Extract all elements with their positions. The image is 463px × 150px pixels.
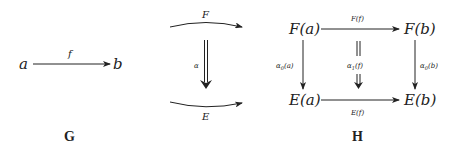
diagram-canvas: a f b G F α E F(a) F(b) E(a) E(b) F(f) E… xyxy=(0,0,463,150)
morphism-f-label: f xyxy=(67,48,74,59)
object-b: b xyxy=(113,55,123,73)
caption-h: H xyxy=(352,129,363,144)
label-alpha0-b: α0(b) xyxy=(420,62,438,71)
functor-f-label: F xyxy=(201,9,210,20)
diagram-h: F(a) F(b) E(a) E(b) F(f) E(f) α0(a) α0(b… xyxy=(276,15,438,144)
functor-f-arrow xyxy=(170,23,242,28)
diagram-g: a f b G xyxy=(19,48,123,144)
caption-g: G xyxy=(64,129,75,144)
node-f-a: F(a) xyxy=(288,20,320,38)
object-a: a xyxy=(19,55,28,73)
diagram-natural-transformation: F α E xyxy=(170,9,242,122)
label-f-f: F(f) xyxy=(350,15,364,23)
node-e-a: E(a) xyxy=(288,91,321,109)
label-e-f: E(f) xyxy=(350,109,364,117)
functor-e-arrow xyxy=(170,102,242,107)
double-arrow-head-icon xyxy=(354,82,363,89)
node-e-b: E(b) xyxy=(403,91,436,109)
alpha-label: α xyxy=(194,62,199,70)
double-arrow-head-icon xyxy=(200,80,212,89)
node-f-b: F(b) xyxy=(403,20,436,38)
label-alpha0-a: α0(a) xyxy=(276,62,294,71)
functor-e-label: E xyxy=(201,111,210,122)
label-alpha1-f: α1(f) xyxy=(347,62,363,71)
